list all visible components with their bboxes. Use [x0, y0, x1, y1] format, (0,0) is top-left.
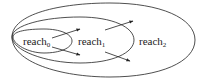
- label-reach1: reach1: [78, 35, 106, 49]
- arrow-reach1-to-reach2-upper: [105, 21, 133, 30]
- reachability-diagram: reach0 reach1 reach2: [0, 0, 201, 81]
- arrow-reach0-to-reach1-lower: [52, 47, 80, 55]
- label-reach2: reach2: [139, 35, 167, 49]
- label-reach0: reach0: [23, 35, 51, 49]
